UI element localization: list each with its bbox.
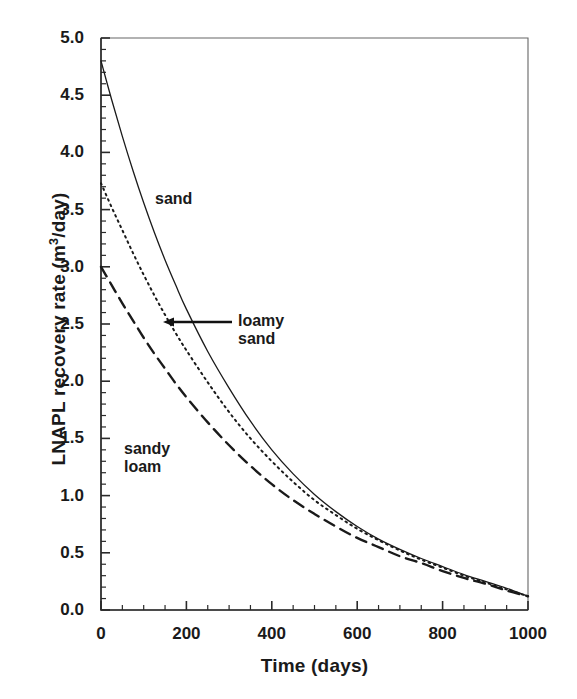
series-label-sandy-loam: sandy loam	[124, 440, 170, 476]
curve-sandy-loam	[101, 267, 528, 596]
leader-arrow	[163, 318, 232, 327]
y-tick-label: 0.5	[28, 543, 84, 563]
y-tick-label: 1.0	[28, 486, 84, 506]
y-tick-label: 0.0	[28, 600, 84, 620]
y-tick-label: 3.5	[28, 200, 84, 220]
y-tick-label: 2.0	[28, 371, 84, 391]
y-tick-label: 4.0	[28, 142, 84, 162]
y-tick-label: 5.0	[28, 28, 84, 48]
y-tick-label: 1.5	[28, 428, 84, 448]
data-curves	[101, 61, 528, 596]
y-tick-label: 2.5	[28, 314, 84, 334]
x-tick-label: 200	[151, 624, 221, 644]
y-axis-title-exponent: 3	[47, 238, 61, 245]
x-tick-label: 400	[237, 624, 307, 644]
axis-ticks	[101, 38, 528, 610]
curve-loamy-sand	[101, 183, 528, 596]
x-axis-title: Time (days)	[101, 655, 528, 677]
series-label-loamy-sand: loamy sand	[238, 312, 284, 348]
curve-sand	[101, 61, 528, 596]
plot-frame	[101, 38, 528, 610]
series-label-sand: sand	[155, 190, 192, 208]
x-tick-label: 800	[408, 624, 478, 644]
x-tick-label: 600	[322, 624, 392, 644]
y-tick-label: 4.5	[28, 85, 84, 105]
chart-canvas	[0, 0, 577, 699]
x-tick-label: 0	[66, 624, 136, 644]
x-tick-label: 1000	[493, 624, 563, 644]
chart-figure: LNAPL recovery rate (m3/day) Time (days)…	[0, 0, 577, 699]
y-tick-label: 3.0	[28, 257, 84, 277]
